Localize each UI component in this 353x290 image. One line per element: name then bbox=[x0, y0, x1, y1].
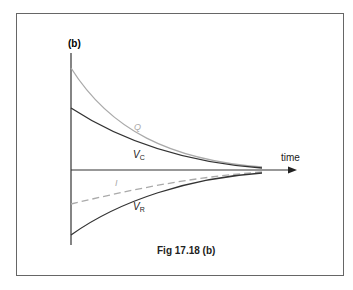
curve-q bbox=[71, 68, 262, 167]
chart: (b) Q VC I VR time Fig 17.18 (b) bbox=[0, 0, 353, 290]
label-vc: VC bbox=[133, 149, 145, 161]
curve-i bbox=[71, 172, 262, 204]
label-i: I bbox=[115, 178, 118, 188]
label-vr: VR bbox=[133, 201, 145, 213]
panel-label: (b) bbox=[68, 38, 81, 49]
label-q: Q bbox=[134, 122, 141, 132]
x-axis-label: time bbox=[281, 152, 300, 163]
arrow-icon bbox=[288, 167, 297, 174]
curve-vr bbox=[71, 173, 262, 235]
curve-vc bbox=[71, 108, 262, 168]
caption: Fig 17.18 (b) bbox=[157, 245, 215, 256]
